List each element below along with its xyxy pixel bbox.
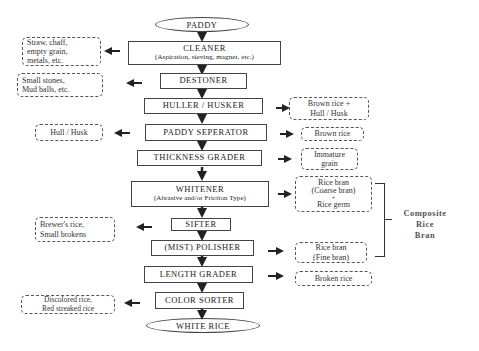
step-sifter: SIFTER bbox=[171, 218, 231, 231]
bracket-tick bbox=[385, 219, 392, 220]
step-color-sorter: COLOR SORTER bbox=[155, 292, 244, 309]
output-brown-rice: Brown rice bbox=[301, 127, 364, 141]
output-line: Straw, chaff, bbox=[27, 38, 100, 47]
composite-bran-bracket bbox=[375, 183, 385, 257]
output-line: Rice bran bbox=[296, 243, 366, 252]
end-node-white-rice: WHITE RICE bbox=[146, 318, 260, 333]
step-color-sorter-label: COLOR SORTER bbox=[156, 296, 243, 305]
step-paddy-separator: PADDY SEPERATOR bbox=[145, 124, 267, 141]
output-line: Red streaked rice bbox=[22, 305, 114, 314]
output-small-stones: Small stones, Mud balls, etc. bbox=[17, 73, 103, 97]
output-line: Brown rice bbox=[302, 129, 363, 138]
output-discolored-rice: Discolored rice, Red streaked rice bbox=[21, 295, 115, 314]
step-destoner-label: DESTONER bbox=[161, 76, 246, 85]
output-line: metals, etc. bbox=[27, 56, 100, 65]
step-sifter-label: SIFTER bbox=[172, 220, 230, 229]
end-label: WHITE RICE bbox=[176, 321, 230, 331]
output-line: Hull / Husk bbox=[36, 128, 102, 137]
step-length-grader: LENGTH GRADER bbox=[144, 266, 253, 283]
group-label-line: Composite bbox=[396, 208, 454, 219]
step-cleaner-sub: (Aspiration, sieving, magnet, etc.) bbox=[129, 54, 280, 62]
output-broken-rice: Broken rice bbox=[295, 271, 372, 286]
output-line: Mud balls, etc. bbox=[22, 85, 102, 94]
step-whitener: WHITENER (Abrasive and/or Friction Type) bbox=[131, 181, 269, 207]
composite-rice-bran-label: Composite Rice Bran bbox=[396, 208, 454, 241]
output-immature-grain: Immature grain bbox=[301, 148, 358, 170]
start-label: PADDY bbox=[186, 20, 217, 30]
step-whitener-sub: (Abrasive and/or Friction Type) bbox=[132, 195, 268, 203]
step-destoner: DESTONER bbox=[160, 73, 247, 89]
output-line: Brown rice + bbox=[290, 99, 368, 108]
step-huller: HULLER / HUSKER bbox=[144, 98, 263, 114]
step-thickness-grader-label: THICKNESS GRADER bbox=[138, 153, 261, 162]
output-line: Broken rice bbox=[296, 274, 371, 283]
output-line: Brewer's rice, bbox=[40, 220, 114, 229]
step-polisher: (MIST) POLISHER bbox=[151, 240, 254, 256]
step-thickness-grader: THICKNESS GRADER bbox=[137, 150, 262, 166]
step-huller-label: HULLER / HUSKER bbox=[145, 101, 262, 110]
step-polisher-label: (MIST) POLISHER bbox=[152, 243, 253, 252]
start-node-paddy: PADDY bbox=[155, 17, 249, 32]
output-coarse-bran: Rice bran (Coarse bran) + Rice germ bbox=[295, 176, 372, 212]
output-brewers-rice: Brewer's rice, Small brokens bbox=[35, 217, 115, 242]
output-line: Hull / Husk bbox=[290, 109, 368, 118]
output-hull-husk-left: Hull / Husk bbox=[35, 124, 103, 141]
output-line: Small brokens bbox=[40, 230, 114, 239]
step-paddy-separator-label: PADDY SEPERATOR bbox=[146, 128, 266, 137]
output-fine-bran: Rice bran (Fine bran) bbox=[295, 242, 367, 263]
output-brown-rice-hull: Brown rice + Hull / Husk bbox=[289, 97, 369, 120]
output-line: grain bbox=[302, 159, 357, 168]
step-cleaner: CLEANER (Aspiration, sieving, magnet, et… bbox=[128, 41, 281, 65]
output-straw-chaff: Straw, chaff, empty grain, metals, etc. bbox=[22, 37, 101, 66]
group-label-line: Rice bbox=[396, 219, 454, 230]
output-line: Small stones, bbox=[22, 76, 102, 85]
output-line: (Fine bran) bbox=[296, 253, 366, 262]
output-line: Immature bbox=[302, 150, 357, 159]
step-length-grader-label: LENGTH GRADER bbox=[145, 270, 252, 279]
output-line: Rice germ bbox=[296, 201, 371, 209]
output-line: (Coarse bran) bbox=[296, 187, 371, 195]
output-line: empty grain, bbox=[27, 47, 100, 56]
group-label-line: Bran bbox=[396, 230, 454, 241]
